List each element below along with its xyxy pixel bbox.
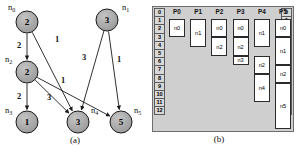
task-block-p4-n2: n2 [254, 56, 270, 74]
processor-header-p0: P0 [167, 8, 187, 15]
edge-weight-n1-n4: 3 [82, 52, 86, 62]
node-weight-n5: 5 [119, 117, 124, 127]
task-block-p5-n1: n1 [275, 37, 291, 65]
graph-edge-n1-n4 [81, 31, 103, 110]
processor-column-p2: P2n0n2 [209, 8, 229, 132]
edge-weight-n1-n5: 1 [117, 54, 121, 64]
processor-header-p2: P2 [209, 8, 229, 15]
node-label-n5: n5 [134, 105, 141, 116]
task-block-p5-n2: n2 [275, 65, 291, 83]
task-block-p0-n0: n0 [169, 19, 185, 37]
task-block-p4-n1: n1 [254, 19, 270, 47]
task-block-p2-n2: n2 [211, 37, 227, 55]
task-block-p5-n0: n0 [275, 19, 291, 37]
task-block-p4-n4: n4 [254, 74, 270, 102]
node-weight-n2: 2 [25, 67, 30, 77]
caption-panel-a: (a) [52, 135, 98, 145]
node-label-n0: n0 [8, 2, 15, 13]
edge-weight-n0-n2: 2 [17, 40, 21, 50]
node-weight-n1: 3 [105, 15, 110, 25]
node-label-n3: n3 [5, 105, 12, 116]
caption-panel-b: (b) [196, 134, 242, 144]
processor-column-p1: P1n1 [188, 8, 208, 132]
task-block-p3-n3: n3 [233, 56, 249, 65]
processor-header-p4: P4 [252, 8, 272, 15]
edge-weight-n2-n3: 2 [17, 91, 21, 101]
edge-weight-n2-n5: 1 [61, 75, 65, 85]
time-scale-left: 0123456789101112 [154, 8, 165, 114]
processor-header-p5: P5 [273, 8, 293, 15]
graph-edge-layer [27, 31, 119, 116]
task-graph-svg: 232135 2123131 n0n1n2n3n4n5 [0, 0, 152, 134]
graph-node-layer: 232135 [16, 9, 132, 133]
processor-column-p0: P0n0 [167, 8, 187, 132]
task-block-p5-n5: n5 [275, 83, 291, 129]
node-weight-n3: 1 [25, 117, 30, 127]
node-weight-n4: 3 [76, 117, 81, 127]
processor-column-p5: P5n0n1n2n5 [273, 8, 293, 132]
task-block-p3-n2: n2 [233, 37, 249, 55]
edge-weight-n2-n4: 3 [47, 92, 51, 102]
task-block-p2-n0: n0 [211, 19, 227, 37]
task-block-p1-n1: n1 [190, 19, 206, 47]
processor-header-p3: P3 [231, 8, 251, 15]
graph-edge-n1-n5 [109, 31, 120, 109]
figure-root: 232135 2123131 n0n1n2n3n4n5 (a) 01234567… [0, 0, 297, 154]
node-label-n2: n2 [5, 54, 12, 65]
panel-a-task-graph: 232135 2123131 n0n1n2n3n4n5 (a) [0, 0, 152, 154]
panel-b-schedule-chart: 0123456789101112 0123456789101112 P0n0P1… [152, 6, 294, 132]
processor-column-p4: P4n1n2n4 [252, 8, 272, 132]
node-label-n4: n4 [91, 105, 98, 116]
processor-column-p3: P3n0n2n3 [231, 8, 251, 132]
time-tick-12: 12 [154, 106, 165, 115]
node-weight-n0: 2 [25, 17, 30, 27]
task-block-p3-n0: n0 [233, 19, 249, 37]
processor-header-p1: P1 [188, 8, 208, 15]
edge-weight-n0-n4: 1 [55, 34, 59, 44]
node-label-n1: n1 [122, 2, 129, 13]
